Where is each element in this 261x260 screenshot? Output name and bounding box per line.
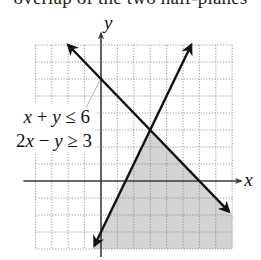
x-axis-label: x — [243, 169, 253, 190]
inequality-graph: x y x + y ≤ 6 2x − y ≥ 3 — [0, 0, 261, 260]
inequality-label-1: x + y ≤ 6 — [22, 106, 90, 127]
y-axis-label: y — [102, 12, 113, 33]
inequality-label-2: 2x − y ≥ 3 — [16, 130, 92, 151]
